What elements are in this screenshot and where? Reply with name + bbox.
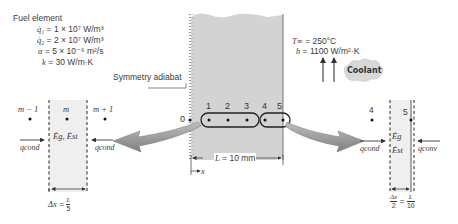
q-conv-right-detail: qconv <box>418 144 437 155</box>
delta-x-right: Δx2 = L10 <box>390 194 415 209</box>
prop-q2: q̇₂ = 2 × 10⁷ W/m³ <box>37 35 104 46</box>
length-dimension: L = 10 mm <box>214 153 256 164</box>
q-cond-right: qcond <box>95 143 115 154</box>
node-0-label: 0 <box>180 114 185 124</box>
delta-x-left: Δx = L5 <box>48 197 70 212</box>
prop-q1: q̇₁ = 1 × 10⁷ W/m³ <box>37 24 104 35</box>
node-5-detail: 5 <box>403 107 408 118</box>
prop-alpha: α = 5 × 10⁻⁶ m²/s <box>38 46 103 57</box>
node-5-label: 5 <box>277 101 282 111</box>
node-3-label: 3 <box>244 101 249 111</box>
energy-est-right: Ėst <box>392 145 403 156</box>
symmetry-adiabat-label: Symmetry adiabat <box>113 72 182 82</box>
node-m-plus-1: m + 1 <box>93 104 113 115</box>
node-4-detail: 4 <box>369 105 374 116</box>
node-4-label: 4 <box>262 101 267 111</box>
symmetry-leader <box>148 83 186 88</box>
node-2-label: 2 <box>225 101 230 111</box>
right-zoom-arrow <box>285 122 364 152</box>
energy-eg-right: Ėg <box>392 131 401 142</box>
fuel-slab <box>190 13 283 163</box>
x-axis-label: x <box>201 166 205 177</box>
fuel-element-title: Fuel element <box>13 13 62 23</box>
q-cond-left: qcond <box>20 143 40 154</box>
prop-k: k = 30 W/m·K <box>42 57 93 68</box>
node-1-label: 1 <box>206 101 211 111</box>
left-zoom-arrow <box>113 122 201 152</box>
node-m: m <box>63 104 69 115</box>
t-inf-label: T∞ = 250°C <box>292 36 336 47</box>
q-cond-right-detail: qcond <box>360 144 380 155</box>
node-m-minus-1: m − 1 <box>18 104 38 115</box>
coolant-label: Coolant <box>347 66 382 75</box>
energy-terms-left: Ėg, Ėst <box>53 131 78 142</box>
h-label: h = 1100 W/m²·K <box>296 46 359 57</box>
